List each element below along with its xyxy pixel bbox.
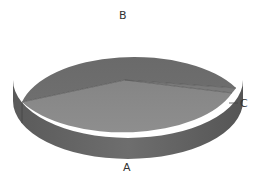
label-b: B bbox=[119, 10, 127, 21]
label-c: C bbox=[240, 98, 248, 109]
label-a: A bbox=[123, 162, 131, 173]
pie-chart-svg bbox=[0, 0, 257, 177]
